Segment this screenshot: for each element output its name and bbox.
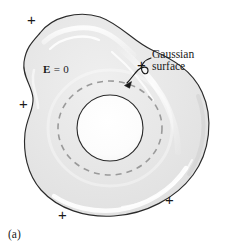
cavity-circle <box>77 95 143 161</box>
field-relation: = 0 <box>54 63 69 75</box>
gaussian-label-line1: Gaussian <box>152 48 194 60</box>
field-symbol: E <box>43 63 51 75</box>
charge-plus-top-left: + <box>27 12 36 27</box>
charge-plus-lower-right: + <box>165 192 174 207</box>
charge-plus-upper-right: + <box>137 57 146 72</box>
gaussian-surface-figure: + + + + + E = 0 Gaussian surface (a) <box>0 0 234 252</box>
gaussian-label-line2: surface <box>152 60 194 72</box>
gaussian-surface-label: Gaussian surface <box>152 48 194 72</box>
charge-plus-left: + <box>19 96 28 111</box>
figure-caption: (a) <box>8 228 21 240</box>
cavity <box>77 95 143 161</box>
field-label: E = 0 <box>43 64 69 76</box>
conductor-diagram-svg <box>0 0 234 252</box>
charge-plus-bottom: + <box>58 207 67 222</box>
